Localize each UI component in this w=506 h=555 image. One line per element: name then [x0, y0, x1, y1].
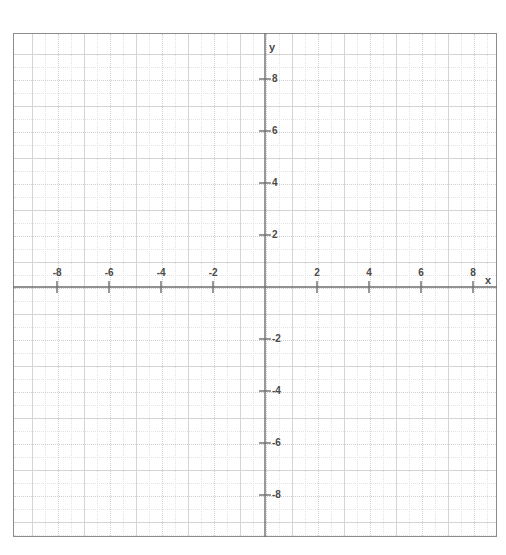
- x-tick-label: -8: [48, 267, 66, 278]
- y-tick-label: -2: [272, 333, 281, 344]
- y-tick-label: -8: [272, 489, 281, 500]
- y-axis-label: y: [269, 41, 275, 53]
- y-tick-label: 8: [272, 73, 277, 84]
- x-tick-label: 8: [464, 267, 482, 278]
- y-tick-label: 2: [272, 229, 277, 240]
- x-tick-label: -6: [100, 267, 118, 278]
- x-tick-label: -2: [204, 267, 222, 278]
- y-tick-label: -4: [272, 385, 281, 396]
- x-axis-label: x: [485, 274, 491, 286]
- x-tick-label: 2: [308, 267, 326, 278]
- x-tick-label: 6: [412, 267, 430, 278]
- x-tick-label: 4: [360, 267, 378, 278]
- y-tick-label: -6: [272, 437, 281, 448]
- axes-overlay: [0, 0, 506, 555]
- y-tick-label: 6: [272, 125, 277, 136]
- y-tick-label: 4: [272, 177, 277, 188]
- coordinate-plane-graph: -8-6-4-224688642-2-4-6-8 y x: [0, 0, 506, 555]
- axis-lines: [13, 33, 497, 537]
- x-tick-label: -4: [152, 267, 170, 278]
